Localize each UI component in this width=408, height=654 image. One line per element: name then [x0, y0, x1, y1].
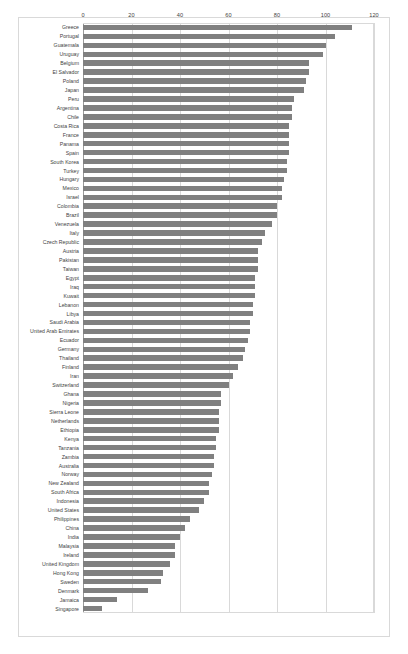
bar[interactable]: [83, 69, 309, 75]
bar[interactable]: [83, 364, 238, 370]
bar[interactable]: [83, 355, 243, 361]
bar[interactable]: [83, 159, 287, 165]
bar[interactable]: [83, 203, 277, 209]
bar-row[interactable]: [83, 69, 374, 75]
bar-row[interactable]: [83, 195, 374, 201]
bar-row[interactable]: [83, 177, 374, 183]
bar[interactable]: [83, 320, 250, 326]
bar-row[interactable]: [83, 230, 374, 236]
bar-row[interactable]: [83, 105, 374, 111]
bar-row[interactable]: [83, 302, 374, 308]
bar-row[interactable]: [83, 472, 374, 478]
bar[interactable]: [83, 525, 185, 531]
bar[interactable]: [83, 221, 272, 227]
bar[interactable]: [83, 150, 289, 156]
bar[interactable]: [83, 427, 219, 433]
bar-row[interactable]: [83, 490, 374, 496]
bar[interactable]: [83, 543, 175, 549]
bar-row[interactable]: [83, 293, 374, 299]
bar[interactable]: [83, 141, 289, 147]
bar[interactable]: [83, 516, 190, 522]
bar[interactable]: [83, 498, 204, 504]
bar-row[interactable]: [83, 436, 374, 442]
bar[interactable]: [83, 302, 253, 308]
bar[interactable]: [83, 552, 175, 558]
bar[interactable]: [83, 284, 255, 290]
bar[interactable]: [83, 132, 289, 138]
bar-row[interactable]: [83, 212, 374, 218]
bar[interactable]: [83, 60, 309, 66]
bar[interactable]: [83, 230, 265, 236]
bar-row[interactable]: [83, 427, 374, 433]
bar-row[interactable]: [83, 186, 374, 192]
bar[interactable]: [83, 43, 326, 49]
bar-row[interactable]: [83, 203, 374, 209]
bar-row[interactable]: [83, 239, 374, 245]
bar[interactable]: [83, 472, 212, 478]
bar-row[interactable]: [83, 347, 374, 353]
bar[interactable]: [83, 454, 214, 460]
bar[interactable]: [83, 257, 258, 263]
bar-row[interactable]: [83, 552, 374, 558]
bar[interactable]: [83, 347, 245, 353]
bar-row[interactable]: [83, 373, 374, 379]
bar[interactable]: [83, 481, 209, 487]
bar[interactable]: [83, 114, 292, 120]
bar-row[interactable]: [83, 445, 374, 451]
bar[interactable]: [83, 579, 161, 585]
bar[interactable]: [83, 463, 214, 469]
bar-row[interactable]: [83, 320, 374, 326]
bar[interactable]: [83, 606, 102, 612]
bar-row[interactable]: [83, 87, 374, 93]
bar[interactable]: [83, 409, 219, 415]
bar-row[interactable]: [83, 400, 374, 406]
bar-row[interactable]: [83, 221, 374, 227]
bar-row[interactable]: [83, 248, 374, 254]
bar-row[interactable]: [83, 382, 374, 388]
bar-row[interactable]: [83, 570, 374, 576]
bar-row[interactable]: [83, 311, 374, 317]
bar-row[interactable]: [83, 159, 374, 165]
bar-row[interactable]: [83, 114, 374, 120]
bar[interactable]: [83, 561, 170, 567]
bar-row[interactable]: [83, 43, 374, 49]
bar-row[interactable]: [83, 418, 374, 424]
bar[interactable]: [83, 418, 219, 424]
bar-row[interactable]: [83, 275, 374, 281]
bar-row[interactable]: [83, 463, 374, 469]
bar-row[interactable]: [83, 364, 374, 370]
bar-row[interactable]: [83, 34, 374, 40]
bar-row[interactable]: [83, 150, 374, 156]
bar[interactable]: [83, 87, 304, 93]
bar-row[interactable]: [83, 606, 374, 612]
bar[interactable]: [83, 570, 163, 576]
bar[interactable]: [83, 588, 148, 594]
bar-row[interactable]: [83, 579, 374, 585]
bar[interactable]: [83, 78, 306, 84]
bar-row[interactable]: [83, 534, 374, 540]
bar[interactable]: [83, 507, 199, 513]
bar-row[interactable]: [83, 25, 374, 31]
bar-row[interactable]: [83, 168, 374, 174]
bar-row[interactable]: [83, 498, 374, 504]
bar-row[interactable]: [83, 96, 374, 102]
bar[interactable]: [83, 34, 335, 40]
bar[interactable]: [83, 168, 287, 174]
bar-row[interactable]: [83, 329, 374, 335]
bar-row[interactable]: [83, 507, 374, 513]
bar[interactable]: [83, 534, 180, 540]
bar[interactable]: [83, 293, 255, 299]
bar[interactable]: [83, 382, 229, 388]
bar[interactable]: [83, 96, 294, 102]
bar[interactable]: [83, 338, 248, 344]
bar[interactable]: [83, 105, 292, 111]
bar-row[interactable]: [83, 52, 374, 58]
bar[interactable]: [83, 186, 282, 192]
bar[interactable]: [83, 123, 289, 129]
bar-row[interactable]: [83, 123, 374, 129]
bar-row[interactable]: [83, 141, 374, 147]
bar[interactable]: [83, 597, 117, 603]
bar[interactable]: [83, 239, 262, 245]
bar-row[interactable]: [83, 284, 374, 290]
bar[interactable]: [83, 266, 258, 272]
